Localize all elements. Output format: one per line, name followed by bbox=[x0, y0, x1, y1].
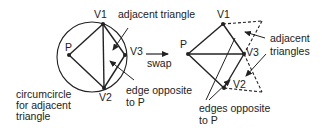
left-label-v1: V1 bbox=[94, 8, 107, 20]
right-label-v3: V3 bbox=[246, 46, 259, 58]
edge-opposite-label-1: edge opposite bbox=[126, 84, 192, 96]
adjacent-triangle-label: adjacent triangle bbox=[118, 8, 195, 20]
adjacent-triangles-pointer-top bbox=[245, 32, 265, 38]
edges-opposite-label-1: edges opposite bbox=[199, 102, 270, 114]
swap-transition: swap bbox=[146, 54, 172, 69]
edges-opposite-label-2: to P bbox=[199, 114, 218, 126]
circumcircle-label-3: triangle bbox=[16, 110, 51, 122]
edges-opposite-pointer-1 bbox=[206, 38, 235, 100]
left-label-v2: V2 bbox=[99, 91, 112, 103]
edge-opposite-label-2: to P bbox=[126, 96, 145, 108]
left-label-p: P bbox=[65, 41, 72, 53]
right-label-p: P bbox=[180, 38, 187, 50]
delaunay-swap-diagram: P V1 V3 V2 adjacent triangle edge opposi… bbox=[0, 0, 322, 130]
right-label-v2: V2 bbox=[233, 78, 246, 90]
left-triangles bbox=[69, 24, 125, 88]
adjacent-triangles-label-1: adjacent bbox=[270, 32, 310, 44]
adjacent-triangles-label-2: triangles bbox=[270, 45, 310, 57]
left-label-v3: V3 bbox=[130, 45, 143, 57]
right-figure: P V1 V3 V2 adjacent triangles edges oppo… bbox=[180, 8, 310, 126]
circumcircle bbox=[57, 22, 127, 92]
right-label-v1: V1 bbox=[217, 8, 230, 20]
swap-label: swap bbox=[147, 57, 172, 69]
edge-opposite-pointer bbox=[110, 61, 134, 80]
